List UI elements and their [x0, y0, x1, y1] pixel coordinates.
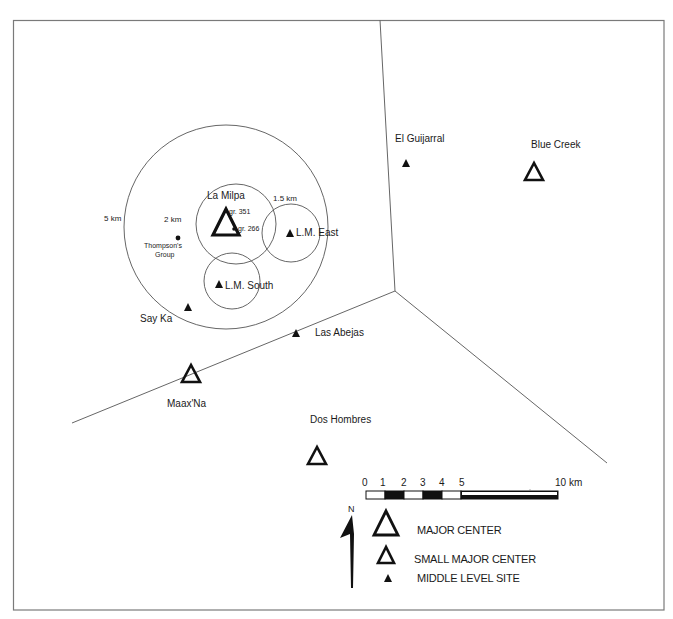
boundary-southeast: [395, 291, 607, 463]
middle-level-site-icon-el-guijarral[interactable]: [402, 159, 410, 167]
scale-tick-4: 4: [439, 478, 445, 488]
north-label: N: [348, 505, 355, 514]
scale-tick-1: 1: [380, 478, 386, 488]
label-say-ka: Say Ka: [140, 314, 172, 324]
label-thompsons-group-line1: Thompson's: [144, 242, 182, 249]
small-major-center-icon-dos-hombres[interactable]: [308, 447, 326, 464]
map-frame: [14, 21, 665, 611]
small-major-center-icon-blue-creek[interactable]: [525, 163, 543, 180]
legend-small-major-center-icon: [378, 547, 394, 563]
middle-level-site-icon-lm-south[interactable]: [215, 280, 223, 288]
thompsons-group-dot[interactable]: [176, 236, 181, 241]
middle-level-site-icon-say-ka[interactable]: [184, 303, 192, 311]
legend-label-major-center: MAJOR CENTER: [417, 525, 501, 536]
boundary-north: [380, 20, 395, 291]
legend-major-center-icon: [374, 511, 398, 535]
group-266-dot: [232, 227, 236, 231]
boundary-southwest: [72, 291, 395, 423]
label-maax-na: Maax'Na: [167, 399, 206, 409]
label-thompsons-group-line2: Group: [155, 251, 174, 258]
label-lm-east: L.M. East: [296, 228, 338, 238]
scale-tick-2: 2: [401, 478, 407, 488]
north-arrow-icon: [340, 515, 354, 588]
label-lm-south: L.M. South: [225, 281, 273, 291]
label-group-351: gr. 351: [229, 208, 250, 215]
label-2km: 2 km: [164, 216, 181, 224]
middle-level-site-icon-lm-east[interactable]: [286, 229, 294, 237]
label-group-266: gr. 266: [238, 225, 259, 232]
label-las-abejas: Las Abejas: [315, 328, 364, 338]
legend-middle-level-site-icon: [384, 574, 392, 582]
scale-tick-10km: 10 km: [555, 478, 582, 488]
label-dos-hombres: Dos Hombres: [310, 415, 371, 425]
scale-tick-0: 0: [362, 478, 368, 488]
scale-tick-5: 5: [459, 478, 465, 488]
label-1-5km: 1.5 km: [273, 195, 297, 203]
group-351-dot: [224, 209, 228, 213]
label-la-milpa: La Milpa: [207, 191, 245, 201]
label-blue-creek: Blue Creek: [531, 140, 580, 150]
scale-tick-3: 3: [420, 478, 426, 488]
scale-bar: [366, 489, 558, 499]
map-canvas: [0, 0, 673, 619]
label-el-guijarral: El Guijarral: [395, 134, 444, 144]
legend-label-middle-level-site: MIDDLE LEVEL SITE: [417, 573, 520, 584]
small-major-center-icon-maax-na[interactable]: [182, 365, 200, 382]
legend-label-small-major-center: SMALL MAJOR CENTER: [414, 554, 536, 565]
label-5km: 5 km: [104, 215, 121, 223]
